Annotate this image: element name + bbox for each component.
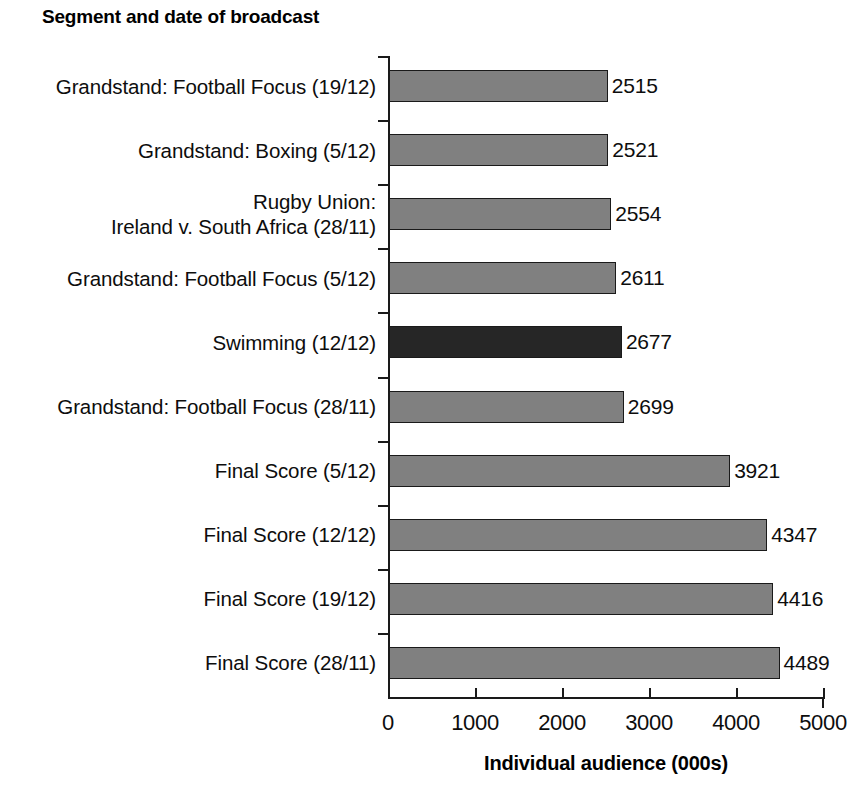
bar-row: Grandstand: Football Focus (28/11)2699: [0, 377, 860, 439]
bar-row: Grandstand: Football Focus (5/12)2611: [0, 248, 860, 310]
bar[interactable]: [389, 519, 767, 551]
bar-wrapper: [389, 70, 608, 102]
bar-value-label: 4416: [777, 583, 823, 615]
value-tick-label: 5000: [778, 710, 860, 736]
category-tick: [378, 441, 389, 443]
value-tick-label: 3000: [604, 710, 694, 736]
bar-wrapper: [389, 391, 624, 423]
bar[interactable]: [389, 583, 773, 615]
bar-value-label: 2677: [626, 326, 672, 358]
category-axis-top-cap: [378, 56, 389, 58]
category-tick: [378, 312, 389, 314]
value-tick-label: 0: [343, 710, 433, 736]
bar-wrapper: [389, 583, 773, 615]
bar[interactable]: [389, 70, 608, 102]
bar-value-label: 2515: [612, 70, 658, 102]
bar-wrapper: [389, 262, 616, 294]
bar-wrapper: [389, 326, 622, 358]
category-label: Swimming (12/12): [16, 330, 376, 355]
bar-wrapper: [389, 455, 730, 487]
bar-wrapper: [389, 198, 611, 230]
value-axis-line: [388, 697, 824, 699]
bar-value-label: 4347: [771, 519, 817, 551]
bar-value-label: 4489: [784, 647, 830, 679]
category-tick: [378, 505, 389, 507]
value-tick: [562, 688, 564, 699]
value-tick: [649, 688, 651, 699]
category-label: Final Score (5/12): [16, 458, 376, 483]
category-axis-title: Segment and date of broadcast: [42, 6, 319, 28]
bar-row: Final Score (19/12)4416: [0, 569, 860, 631]
category-tick: [378, 120, 389, 122]
bar-row: Swimming (12/12)2677: [0, 312, 860, 374]
bar[interactable]: [389, 134, 608, 166]
bar-value-label: 2521: [612, 134, 658, 166]
value-tick-label: 2000: [517, 710, 607, 736]
value-tick-label: 1000: [430, 710, 520, 736]
bar[interactable]: [389, 326, 622, 358]
bar[interactable]: [389, 391, 624, 423]
bar-value-label: 2699: [628, 391, 674, 423]
bar-row: Rugby Union: Ireland v. South Africa (28…: [0, 184, 860, 246]
value-tick: [388, 688, 390, 699]
value-tick: [475, 688, 477, 699]
value-axis-title: Individual audience (000s): [388, 752, 824, 775]
category-tick: [378, 569, 389, 571]
bar-wrapper: [389, 647, 780, 679]
bar-value-label: 3921: [734, 455, 780, 487]
bar[interactable]: [389, 198, 611, 230]
value-tick-label: 4000: [691, 710, 781, 736]
bar-value-label: 2611: [620, 262, 664, 294]
bar-value-label: 2554: [615, 198, 661, 230]
bar-row: Final Score (12/12)4347: [0, 505, 860, 567]
category-tick: [378, 377, 389, 379]
bar[interactable]: [389, 262, 616, 294]
bar-row: Final Score (5/12)3921: [0, 441, 860, 503]
category-label: Grandstand: Football Focus (28/11): [16, 394, 376, 419]
category-label: Final Score (19/12): [16, 586, 376, 611]
bar-row: Grandstand: Football Focus (19/12)2515: [0, 56, 860, 118]
bar-wrapper: [389, 134, 608, 166]
category-tick: [378, 248, 389, 250]
bar[interactable]: [389, 455, 730, 487]
bar-row: Final Score (28/11)4489: [0, 633, 860, 695]
bar-wrapper: [389, 519, 767, 551]
category-tick: [378, 633, 389, 635]
bar[interactable]: [389, 647, 780, 679]
category-label: Final Score (28/11): [16, 650, 376, 675]
category-label: Final Score (12/12): [16, 522, 376, 547]
category-tick: [378, 184, 389, 186]
bar-row: Grandstand: Boxing (5/12)2521: [0, 120, 860, 182]
category-label: Rugby Union: Ireland v. South Africa (28…: [16, 189, 376, 239]
category-label: Grandstand: Football Focus (19/12): [16, 74, 376, 99]
category-label: Grandstand: Boxing (5/12): [16, 138, 376, 163]
value-tick: [736, 688, 738, 699]
value-tick: [823, 688, 825, 699]
bar-chart: Segment and date of broadcast Grandstand…: [0, 0, 860, 804]
category-label: Grandstand: Football Focus (5/12): [16, 266, 376, 291]
